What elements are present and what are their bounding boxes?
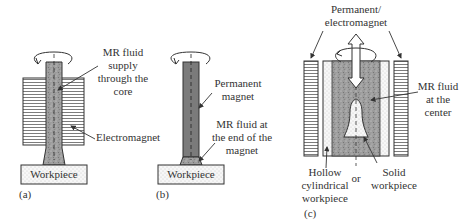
label-line: magnet: [202, 144, 282, 157]
right-magnet: [394, 61, 408, 156]
label-line: supply: [88, 59, 158, 72]
label-permanent-electromagnet: Permanent/ electromagnet: [318, 3, 394, 29]
caption-c: (c): [304, 207, 316, 220]
label-mr-fluid-end: MR fluid at the end of the magnet: [202, 118, 282, 157]
fluid-at-end: [180, 157, 202, 165]
label-line: workpiece: [295, 192, 355, 205]
label-line: center: [412, 106, 464, 119]
label-line: workpiece: [364, 179, 424, 192]
label-mr-fluid-supply: MR fluid supply through the core: [88, 46, 158, 98]
label-line: Permanent/: [318, 3, 394, 16]
label-mr-fluid-center: MR fluid at the center: [412, 80, 464, 119]
workpiece-label: Workpiece: [158, 168, 224, 181]
label-solid-workpiece: Solid workpiece: [364, 166, 424, 192]
label-line: at the: [412, 93, 464, 106]
label-line: through the: [88, 72, 158, 85]
label-or: or: [346, 172, 366, 185]
label-line: core: [88, 85, 158, 98]
caption-b: (b): [156, 188, 169, 201]
label-permanent-magnet: Permanent magnet: [205, 77, 271, 103]
label-line: MR fluid at: [202, 118, 282, 131]
panel-c: [304, 31, 418, 168]
label-line: the end of the: [202, 131, 282, 144]
label-line: magnet: [205, 90, 271, 103]
workpiece-label: Workpiece: [21, 168, 87, 181]
caption-a: (a): [19, 188, 31, 201]
label-line: MR fluid: [412, 80, 464, 93]
label-electromagnet: Electromagnet: [96, 131, 160, 144]
label-line: Solid: [364, 166, 424, 179]
left-magnet: [304, 61, 318, 156]
panel-a: [21, 52, 98, 184]
label-line: Permanent: [205, 77, 271, 90]
label-line: MR fluid: [88, 46, 158, 59]
label-line: electromagnet: [318, 16, 394, 29]
